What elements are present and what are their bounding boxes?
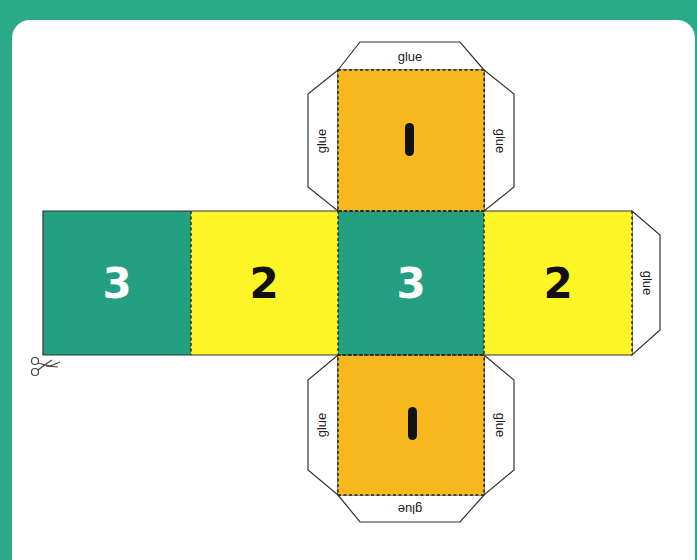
face-right-number: 2 — [543, 259, 572, 308]
face-top-number-one — [405, 123, 414, 156]
glue-label-right-end: glue — [640, 271, 655, 296]
glue-label-top: glue — [398, 49, 423, 64]
face-center-number: 3 — [396, 259, 425, 308]
glue-label-bottom: glue — [398, 502, 423, 517]
glue-label-top-right: glue — [493, 129, 508, 154]
glue-label-bottom-left: glue — [314, 413, 329, 438]
face-left-far-number: 3 — [102, 259, 131, 308]
glue-label-top-left: glue — [314, 129, 329, 154]
scissors-icon — [32, 358, 61, 376]
glue-label-bottom-right: glue — [493, 413, 508, 438]
face-left-number: 2 — [249, 259, 278, 308]
face-bottom-number-one — [408, 407, 417, 440]
